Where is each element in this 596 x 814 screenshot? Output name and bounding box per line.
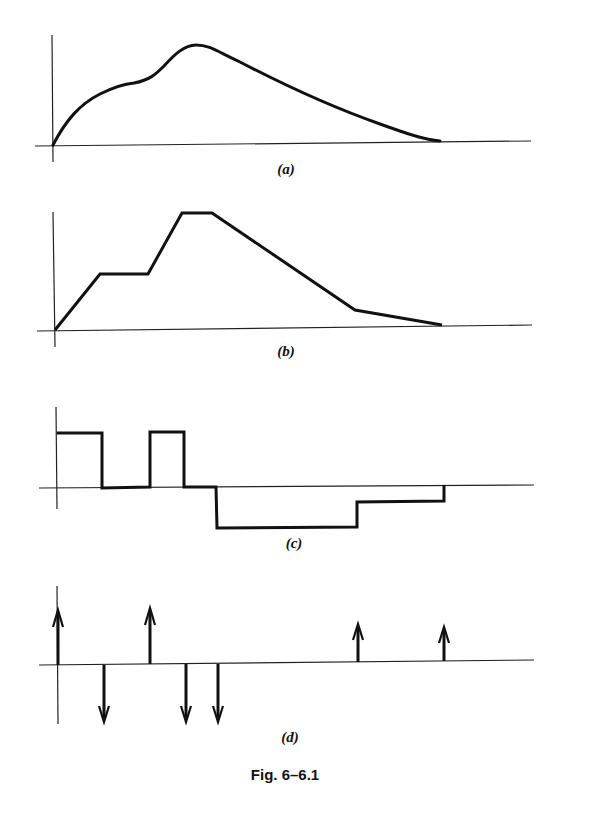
panel-b-caption: (b) [277, 343, 295, 360]
panel-c-step-function [57, 432, 444, 528]
impulse-up-arrow-icon [353, 624, 363, 662]
panel-d: (d) [39, 586, 534, 746]
panel-a-curve [53, 45, 440, 145]
panel-c-caption: (c) [286, 535, 303, 552]
panel-c-y-axis [56, 407, 57, 509]
impulse-up-arrow-icon [439, 627, 449, 661]
panel-d-caption: (d) [281, 729, 299, 746]
panel-a: (a) [35, 35, 531, 178]
impulse-down-arrow-icon [99, 665, 109, 722]
panel-c: (c) [39, 407, 534, 552]
figure-canvas: (a) (b) (c) [0, 0, 596, 814]
panel-b-x-axis [37, 325, 532, 331]
panel-b-y-axis [53, 212, 55, 347]
figure-title: Fig. 6–6.1 [251, 766, 319, 783]
panel-a-x-axis [35, 141, 531, 146]
impulse-up-arrow-icon [53, 610, 63, 665]
panel-b: (b) [37, 212, 532, 360]
panel-b-piecewise-line [55, 213, 442, 330]
impulse-down-arrow-icon [181, 664, 191, 722]
panel-d-x-axis [39, 660, 534, 665]
panel-a-caption: (a) [277, 161, 295, 178]
impulse-down-arrow-icon [213, 664, 223, 722]
impulse-up-arrow-icon [145, 608, 155, 664]
